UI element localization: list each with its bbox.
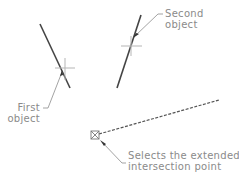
label-line: Selects the extended	[128, 150, 239, 161]
first-object-leader	[43, 72, 62, 108]
second-object-leader	[135, 14, 163, 36]
extended-point-leader	[102, 142, 126, 163]
label-line: object	[165, 19, 204, 30]
extension-dashed-line	[99, 100, 219, 134]
intersection-marker-icon	[91, 131, 99, 139]
first-object-label: First object	[2, 102, 40, 124]
label-line: intersection point	[128, 161, 239, 172]
label-line: Second	[165, 8, 204, 19]
label-line: object	[2, 113, 40, 124]
crosshair-icon	[121, 36, 142, 56]
second-object-line	[117, 15, 141, 88]
label-line: First	[2, 102, 40, 113]
extended-point-label: Selects the extended intersection point	[128, 150, 239, 172]
second-object-label: Second object	[165, 8, 204, 30]
